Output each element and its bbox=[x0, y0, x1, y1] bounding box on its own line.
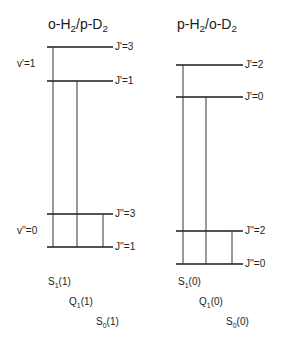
right-transitions bbox=[183, 65, 232, 264]
vib-lower-label: v''=0 bbox=[17, 226, 37, 236]
level-label: J''=1 bbox=[115, 242, 135, 252]
transition-label-s1-0: S1(0) bbox=[178, 277, 201, 287]
label-main: S bbox=[48, 276, 55, 287]
title-part: /p-D bbox=[76, 16, 102, 32]
title-part: o-H bbox=[48, 16, 71, 32]
transition-label-q1-1: Q1(1) bbox=[69, 297, 93, 307]
left-panel-title: o-H2/p-D2 bbox=[48, 17, 108, 31]
label-arg: (0) bbox=[237, 316, 249, 327]
level-label: J'=0 bbox=[245, 92, 263, 102]
title-part: /o-D bbox=[205, 16, 231, 32]
level-label: J''=2 bbox=[245, 226, 265, 236]
level-label: J'=1 bbox=[115, 76, 133, 86]
label-arg: (1) bbox=[59, 276, 71, 287]
level-label: J'=3 bbox=[115, 42, 133, 52]
transition-label-q1-0: Q1(0) bbox=[199, 297, 223, 307]
label-main: Q bbox=[69, 296, 77, 307]
vib-upper-label: v'=1 bbox=[17, 59, 35, 69]
right-panel-title: p-H2/o-D2 bbox=[177, 17, 237, 31]
label-main: S bbox=[178, 276, 185, 287]
label-main: S bbox=[96, 316, 103, 327]
level-label: J'=2 bbox=[245, 60, 263, 70]
label-arg: (1) bbox=[107, 316, 119, 327]
level-label: J''=0 bbox=[245, 259, 265, 269]
title-subscript: 2 bbox=[102, 23, 107, 34]
label-arg: (0) bbox=[211, 296, 223, 307]
right-energy-levels bbox=[176, 65, 243, 264]
energy-level-diagram bbox=[0, 0, 281, 344]
label-arg: (1) bbox=[81, 296, 93, 307]
title-part: p-H bbox=[177, 16, 200, 32]
label-main: Q bbox=[199, 296, 207, 307]
label-main: S bbox=[226, 316, 233, 327]
left-transitions bbox=[53, 47, 103, 247]
label-arg: (0) bbox=[189, 276, 201, 287]
level-label: J''=3 bbox=[115, 209, 135, 219]
transition-label-s0-0: S0(0) bbox=[226, 317, 249, 327]
transition-label-s0-1: S0(1) bbox=[96, 317, 119, 327]
title-subscript: 2 bbox=[231, 23, 236, 34]
transition-label-s1-1: S1(1) bbox=[48, 277, 71, 287]
